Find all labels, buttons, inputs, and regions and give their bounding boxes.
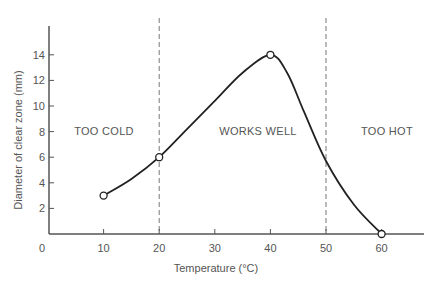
x-tick-label: 20 xyxy=(153,242,165,254)
data-point-marker xyxy=(378,231,385,238)
y-tick-label: 10 xyxy=(33,100,45,112)
y-tick-label: 6 xyxy=(39,151,45,163)
y-tick-label: 8 xyxy=(39,126,45,138)
y-tick-label: 2 xyxy=(39,202,45,214)
chart: 0102030405060 2468101214 TOO COLDWORKS W… xyxy=(0,0,434,283)
y-axis-label: Diameter of clear zone (mm) xyxy=(12,70,24,209)
x-tick-label: 30 xyxy=(209,242,221,254)
x-ticks: 0102030405060 xyxy=(39,229,388,254)
region-label: WORKS WELL xyxy=(219,125,297,137)
region-label: TOO COLD xyxy=(74,125,134,137)
line-chart: 0102030405060 2468101214 TOO COLDWORKS W… xyxy=(0,0,434,283)
y-ticks: 2468101214 xyxy=(33,49,54,215)
x-tick-label: 40 xyxy=(264,242,276,254)
data-point-marker xyxy=(100,192,107,199)
data-point-marker xyxy=(156,154,163,161)
x-tick-label: 60 xyxy=(375,242,387,254)
y-tick-label: 14 xyxy=(33,49,45,61)
y-tick-label: 4 xyxy=(39,177,45,189)
x-tick-label: 50 xyxy=(320,242,332,254)
data-point-marker xyxy=(267,51,274,58)
data-curve xyxy=(104,55,382,234)
data-markers xyxy=(100,51,385,237)
region-label: TOO HOT xyxy=(361,125,413,137)
x-axis-label: Temperature (°C) xyxy=(174,262,258,274)
region-annotations: TOO COLDWORKS WELLTOO HOT xyxy=(74,125,413,137)
y-tick-label: 12 xyxy=(33,74,45,86)
x-tick-label: 0 xyxy=(39,242,45,254)
x-tick-label: 10 xyxy=(97,242,109,254)
